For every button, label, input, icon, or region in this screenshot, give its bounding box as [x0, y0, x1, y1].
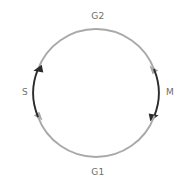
arc-g1 [38, 116, 154, 157]
phase-label-g2: G2 [0, 12, 196, 21]
arc-s [33, 70, 38, 117]
phase-label-g1: G1 [0, 168, 196, 177]
cell-cycle-diagram: G2 M G1 S [0, 0, 196, 193]
arc-g2 [38, 29, 154, 70]
arc-m [154, 70, 159, 117]
phase-label-m: M [166, 88, 174, 97]
phase-label-s: S [22, 88, 28, 97]
